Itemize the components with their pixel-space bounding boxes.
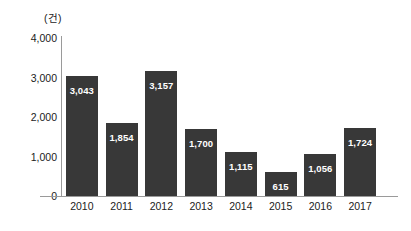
y-tick-label: 2,000 — [11, 111, 57, 123]
x-tick-label-2010: 2010 — [62, 200, 102, 212]
x-tick-label-2012: 2012 — [142, 200, 182, 212]
x-tick-label-2011: 2011 — [102, 200, 142, 212]
y-tick-label: 1,000 — [11, 151, 57, 163]
x-tick-label-2015: 2015 — [261, 200, 301, 212]
y-tick-label: 4,000 — [11, 32, 57, 44]
x-tick-label-2016: 2016 — [301, 200, 341, 212]
bar-chart: (건) 4,000 3,000 2,000 1,000 0 3,043 1,85… — [0, 0, 411, 231]
x-tick-label-2014: 2014 — [221, 200, 261, 212]
x-tick-label-2013: 2013 — [181, 200, 221, 212]
x-axis-tick-labels: 2010 2011 2012 2013 2014 2015 2016 2017 — [62, 0, 380, 231]
x-tick-label-2017: 2017 — [340, 200, 380, 212]
y-tick-label: 3,000 — [11, 72, 57, 84]
